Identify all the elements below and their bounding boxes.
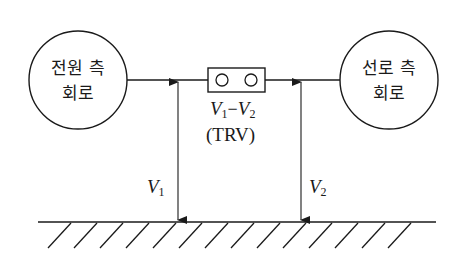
diff-right-symbol: V [238, 98, 250, 119]
diff-right-sub: 2 [249, 107, 255, 121]
v1-sub: 1 [159, 185, 165, 199]
line-side-label-line1: 선로 측 [339, 56, 439, 81]
source-side-label-line1: 전원 측 [28, 56, 128, 81]
voltage-difference-label: V1−V2 [210, 99, 255, 120]
v1-symbol: V [147, 176, 159, 197]
line-side-circuit-label: 선로 측 회로 [339, 56, 439, 106]
diff-left-symbol: V [210, 98, 222, 119]
v2-symbol: V [309, 176, 321, 197]
source-side-circuit-label: 전원 측 회로 [28, 56, 128, 106]
ground-hatch [48, 223, 411, 248]
source-side-label-line2: 회로 [28, 81, 128, 106]
trv-label: (TRV) [206, 125, 255, 144]
v1-label: V1 [147, 177, 165, 198]
v2-label: V2 [309, 177, 327, 198]
v2-sub: 2 [321, 185, 327, 199]
line-side-label-line2: 회로 [339, 81, 439, 106]
diff-operator: − [228, 99, 238, 119]
